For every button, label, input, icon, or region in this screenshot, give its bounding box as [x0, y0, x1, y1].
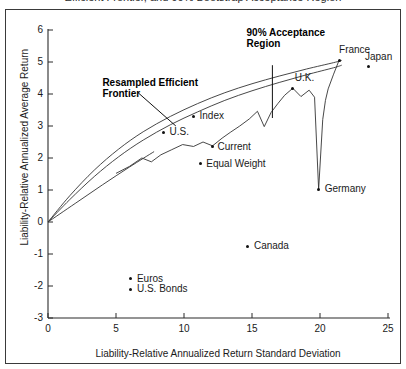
- annotation-line: Resampled Efficient: [102, 77, 198, 88]
- data-point-label: U.K.: [295, 72, 314, 83]
- annotation-resampled-efficient-frontier: Resampled EfficientFrontier: [102, 77, 198, 99]
- x-tick-label: 20: [308, 323, 332, 334]
- y-axis-title: Liability-Relative Annualized Average Re…: [19, 66, 30, 246]
- series-line: [48, 152, 154, 222]
- annotation-line: Region: [247, 38, 326, 49]
- y-tick-label: -2: [21, 280, 43, 291]
- data-point-label: Index: [200, 110, 224, 121]
- data-point-label: Canada: [254, 240, 289, 251]
- data-point-label: Japan: [365, 51, 392, 62]
- chart-plot-area: -3-2-101234560510152025Liability-Relativ…: [0, 0, 406, 369]
- annotation-acceptance-region: 90% AcceptanceRegion: [247, 27, 326, 49]
- y-tick-label: 6: [21, 24, 43, 35]
- annotation-line: 90% Acceptance: [247, 27, 326, 38]
- y-tick-label: -3: [21, 312, 43, 323]
- data-point-label: U.S. Bonds: [137, 283, 188, 294]
- x-tick-label: 15: [240, 323, 264, 334]
- data-point-marker: [317, 188, 320, 191]
- data-point-marker: [338, 59, 341, 62]
- data-point-marker: [192, 115, 195, 118]
- x-tick-label: 5: [104, 323, 128, 334]
- data-point-label: Germany: [325, 183, 366, 194]
- x-tick-label: 10: [172, 323, 196, 334]
- annotation-line: Frontier: [102, 88, 198, 99]
- x-tick-label: 25: [376, 323, 400, 334]
- y-tick-label: -1: [21, 248, 43, 259]
- data-point-label: U.S.: [170, 126, 189, 137]
- x-tick-label: 0: [36, 323, 60, 334]
- x-axis-title: Liability-Relative Annualized Return Sta…: [48, 348, 388, 359]
- data-point-label: Current: [218, 141, 251, 152]
- data-point-label: Equal Weight: [206, 158, 265, 169]
- data-point-marker: [162, 131, 165, 134]
